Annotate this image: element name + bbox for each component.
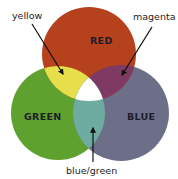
- venn-svg: RED GREEN BLUE yellow magenta blue/green: [0, 0, 178, 179]
- red-label: RED: [90, 35, 113, 46]
- blue-green-callout: blue/green: [66, 165, 117, 176]
- yellow-callout: yellow: [12, 10, 43, 21]
- color-venn-diagram: RED GREEN BLUE yellow magenta blue/green: [0, 0, 178, 179]
- magenta-callout: magenta: [133, 11, 176, 22]
- green-label: GREEN: [24, 111, 62, 122]
- blue-label: BLUE: [127, 111, 155, 122]
